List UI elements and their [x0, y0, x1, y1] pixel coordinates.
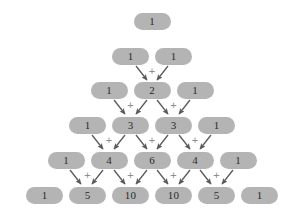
pascal-cell-value: 1	[257, 190, 263, 201]
plus-sign: +	[127, 100, 133, 111]
pascal-cell-value: 1	[235, 155, 241, 166]
plus-sign: +	[106, 135, 112, 146]
pascal-cell: 1	[177, 82, 214, 99]
pascal-cell-value: 3	[128, 120, 134, 131]
pascal-cell: 1	[69, 117, 106, 134]
pascal-cell: 1	[134, 13, 171, 30]
pascal-cell: 2	[134, 82, 171, 99]
cell-layer: 11112113311464115101051++++++++++	[0, 0, 304, 214]
pascal-cell-value: 1	[149, 16, 155, 27]
pascal-cell: 10	[155, 187, 192, 204]
pascal-cell-value: 2	[149, 85, 155, 96]
pascal-cell: 10	[112, 187, 149, 204]
pascal-cell: 1	[198, 117, 235, 134]
pascal-cell-value: 1	[85, 120, 91, 131]
plus-sign: +	[127, 170, 133, 181]
pascal-cell: 3	[112, 117, 149, 134]
pascal-cell: 6	[134, 152, 171, 169]
pascal-cell: 5	[198, 187, 235, 204]
pascal-cell-value: 10	[125, 190, 136, 201]
pascal-cell-value: 4	[192, 155, 198, 166]
pascal-cell-value: 1	[192, 85, 198, 96]
pascal-cell: 1	[241, 187, 278, 204]
pascal-cell-value: 1	[128, 51, 134, 62]
pascal-cell: 1	[112, 48, 149, 65]
pascal-cell: 3	[155, 117, 192, 134]
pascal-cell-value: 5	[85, 190, 91, 201]
pascal-cell: 1	[220, 152, 257, 169]
pascal-cell-value: 6	[149, 155, 155, 166]
plus-sign: +	[170, 100, 176, 111]
pascal-cell: 1	[48, 152, 85, 169]
pascal-cell: 1	[155, 48, 192, 65]
pascal-cell: 1	[26, 187, 63, 204]
pascal-cell-value: 3	[171, 120, 177, 131]
pascal-cell-value: 5	[214, 190, 220, 201]
pascal-cell-value: 4	[106, 155, 112, 166]
plus-sign: +	[170, 170, 176, 181]
pascal-cell-value: 10	[168, 190, 179, 201]
pascal-cell-value: 1	[63, 155, 69, 166]
pascal-cell: 1	[91, 82, 128, 99]
pascal-cell-value: 1	[42, 190, 48, 201]
plus-sign: +	[192, 135, 198, 146]
pascal-cell: 4	[91, 152, 128, 169]
pascal-cell-value: 1	[214, 120, 220, 131]
pascal-cell: 4	[177, 152, 214, 169]
pascal-triangle-figure: 11112113311464115101051++++++++++	[0, 0, 304, 214]
plus-sign: +	[213, 170, 219, 181]
pascal-cell-value: 1	[106, 85, 112, 96]
pascal-cell: 5	[69, 187, 106, 204]
plus-sign: +	[149, 135, 155, 146]
plus-sign: +	[84, 170, 90, 181]
plus-sign: +	[149, 66, 155, 77]
pascal-cell-value: 1	[171, 51, 177, 62]
